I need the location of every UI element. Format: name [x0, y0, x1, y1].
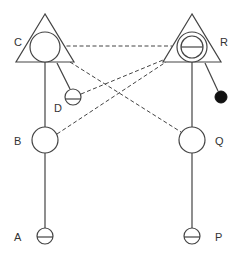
- node-r: [163, 14, 221, 62]
- edge-c-d: [57, 63, 70, 89]
- label-d: D: [54, 102, 62, 114]
- circle-c-icon: [30, 32, 60, 62]
- circle-a-icon: [37, 228, 53, 244]
- filled-node-icon: [215, 91, 227, 103]
- dashed-edge-d-r: [81, 58, 168, 94]
- node-c: [16, 14, 74, 62]
- edge-r-filled: [205, 63, 218, 91]
- label-r: R: [220, 36, 228, 48]
- label-a: A: [14, 231, 22, 243]
- circle-p-icon: [184, 228, 200, 244]
- dashed-edge-c-q: [70, 62, 181, 132]
- circle-d-icon: [65, 89, 81, 105]
- node-p: [184, 228, 200, 244]
- circle-q-icon: [179, 127, 205, 153]
- diagram-canvas: C R D B Q A P: [0, 0, 241, 256]
- label-c: C: [14, 36, 22, 48]
- circle-b-icon: [32, 127, 58, 153]
- label-q: Q: [215, 135, 224, 147]
- node-a: [37, 228, 53, 244]
- label-p: P: [215, 231, 222, 243]
- node-d: [65, 89, 81, 105]
- label-b: B: [14, 135, 21, 147]
